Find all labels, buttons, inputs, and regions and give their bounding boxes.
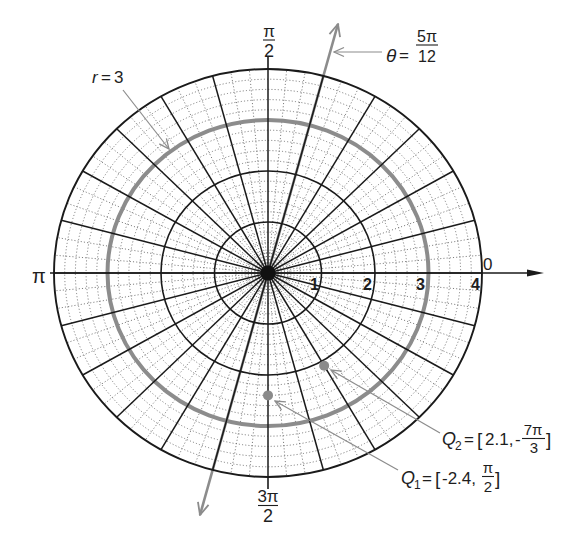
ray-var: θ	[386, 45, 397, 66]
q2-letter: Q	[442, 429, 456, 449]
q1-open-bracket: [	[435, 468, 441, 489]
q1-letter: Q	[401, 468, 415, 488]
q1-theta-denominator: 2	[484, 478, 492, 495]
ring-value: 3	[114, 68, 123, 87]
q1-name: Q	[401, 468, 415, 488]
ring-eq: =	[101, 68, 111, 87]
q1-r-value: -2.4,	[442, 469, 476, 488]
annotation-ray: θ = 5π 12	[334, 28, 438, 66]
q2-close-bracket: ]	[546, 429, 551, 450]
label-half-pi: π 2	[263, 22, 275, 61]
label-zero: 0	[483, 255, 492, 274]
annotation-ring: r = 3	[92, 68, 169, 149]
q2-r-value: 2.1,	[485, 430, 513, 449]
point-label-q2: Q 2 = [ 2.1, - 7π 3 ]	[331, 370, 551, 456]
polar-axis-arrow-icon	[527, 270, 544, 277]
radial-label-2: 2	[363, 276, 372, 293]
q2-sign: -	[515, 430, 521, 449]
pole-dot	[261, 266, 276, 281]
q2-name: Q	[442, 429, 456, 449]
three-half-pi-denominator: 2	[263, 506, 273, 526]
label-pi: π	[32, 265, 46, 287]
q1-close-bracket: ]	[495, 468, 500, 489]
half-pi-denominator: 2	[264, 41, 274, 61]
ray-eq: =	[399, 46, 409, 65]
q1-theta-numerator: π	[483, 459, 493, 476]
three-half-pi-numerator: 3π	[257, 487, 278, 506]
q2-theta-denominator: 3	[530, 439, 538, 456]
point-q1	[263, 390, 273, 400]
q2-eq: =	[464, 430, 474, 449]
radial-label-1: 1	[310, 276, 319, 293]
radial-label-4: 4	[471, 276, 480, 293]
ray-denominator: 12	[418, 48, 436, 65]
q1-eq: =	[422, 469, 432, 488]
q2-subscript: 2	[455, 439, 462, 453]
q2-theta-numerator: 7π	[524, 421, 543, 438]
q1-subscript: 1	[414, 478, 421, 492]
half-pi-numerator: π	[263, 22, 275, 41]
polar-graph: π 2 3π 2 π 0 1 2 3 4 r = 3 θ = 5π 12 Q 2…	[0, 0, 581, 547]
radial-label-3: 3	[416, 276, 425, 293]
q2-open-bracket: [	[477, 429, 483, 450]
ray-numerator: 5π	[417, 28, 437, 45]
point-q2	[319, 361, 329, 371]
label-three-half-pi: 3π 2	[257, 487, 278, 526]
ring-var: r	[92, 68, 99, 87]
plotted-points	[263, 361, 329, 401]
